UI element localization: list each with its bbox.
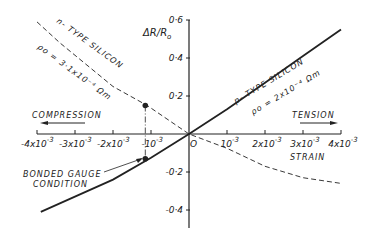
strain-gauge-chart: -4x10-3-3x10-3-2x10-3-10-310-32x10-33x10… bbox=[0, 0, 377, 244]
x-tick-label: -10-3 bbox=[141, 136, 163, 149]
data-marker bbox=[143, 156, 149, 162]
y-tick-label: 0·2 bbox=[169, 91, 184, 101]
bonded-gauge-label: BONDED GAUGE bbox=[23, 170, 101, 179]
y-tick-label: -0·4 bbox=[165, 205, 183, 215]
x-tick-label: -2x10-3 bbox=[97, 136, 130, 149]
bonded-gauge-label-2: CONDITION bbox=[33, 180, 88, 189]
bonded-gauge-leader bbox=[104, 159, 141, 172]
x-tick-label: 4x10-3 bbox=[328, 136, 358, 149]
x-tick-label: 2x10-3 bbox=[252, 136, 282, 149]
y-tick-label: 0·6 bbox=[169, 15, 184, 25]
y-axis-title: ΔR/Ro bbox=[142, 27, 171, 41]
arrowhead-left-icon bbox=[40, 121, 48, 125]
data-marker bbox=[143, 103, 149, 109]
arrowhead-right-icon bbox=[330, 121, 338, 125]
x-tick-label: -4x10-3 bbox=[21, 136, 54, 149]
y-tick-label: -0·2 bbox=[165, 167, 183, 177]
y-tick-label: 0·4 bbox=[169, 53, 184, 63]
x-axis-title: STRAIN bbox=[290, 153, 325, 162]
labels-layer: ΔR/Ro STRAIN COMPRESSION TENSION BONDED … bbox=[23, 16, 335, 189]
origin-label: O bbox=[190, 139, 197, 149]
x-tick-label: 3x10-3 bbox=[290, 136, 320, 149]
x-tick-label: -3x10-3 bbox=[59, 136, 92, 149]
tension-label: TENSION bbox=[292, 111, 335, 120]
compression-label: COMPRESSION bbox=[32, 111, 102, 120]
axes: -4x10-3-3x10-3-2x10-3-10-310-32x10-33x10… bbox=[21, 15, 358, 228]
